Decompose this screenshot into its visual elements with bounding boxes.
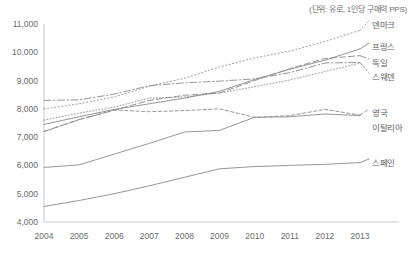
series-leader-line [360, 43, 369, 49]
y-tick-label: 4,000 [17, 217, 39, 227]
line-chart-plot: 11,00010,0009,0008,0007,0006,0005,0004,0… [0, 0, 413, 256]
series-line-united-kingdom [44, 63, 360, 120]
series-label-denmark: 덴마크 [372, 18, 395, 30]
series-label-sweden: 스웨덴 [372, 70, 395, 82]
x-tick-label: 2005 [70, 231, 89, 241]
x-tick-label: 2004 [35, 231, 54, 241]
chart-container: (단위: 유로, 1인당 구매력 PPS) 11,00010,0009,0008… [0, 0, 413, 256]
y-tick-label: 10,000 [12, 47, 38, 57]
series-line-denmark [44, 30, 360, 109]
data-series-group [44, 21, 369, 206]
x-tick-label: 2013 [351, 231, 370, 241]
series-line-germany [44, 56, 360, 132]
series-leader-line [360, 56, 369, 59]
series-line-spain-lower [44, 163, 360, 207]
x-tick-label: 2011 [281, 231, 300, 241]
series-leader-line [360, 109, 369, 115]
y-tick-label: 7,000 [17, 132, 39, 142]
y-tick-label: 5,000 [17, 189, 39, 199]
x-tick-label: 2006 [105, 231, 124, 241]
y-tick-label: 8,000 [17, 104, 39, 114]
series-leader-line [360, 62, 369, 73]
x-tick-label: 2010 [245, 231, 264, 241]
series-label-italy: 이탈리아 [372, 121, 403, 133]
series-line-france [44, 49, 360, 125]
series-label-spain: 스페인 [372, 156, 395, 168]
series-label-germany: 독일 [372, 56, 387, 68]
x-tick-label: 2009 [210, 231, 229, 241]
x-tick-label: 2008 [175, 231, 194, 241]
series-line-italy [44, 109, 360, 132]
series-line-spain [44, 114, 360, 167]
x-axis-tick-labels: 2004200520062007200820092010201120122013 [35, 231, 370, 241]
x-tick-label: 2012 [315, 231, 334, 241]
x-tick-label: 2007 [140, 231, 159, 241]
series-label-france: 프랑스 [372, 40, 395, 52]
series-leader-line [360, 159, 369, 163]
y-tick-label: 11,000 [13, 19, 39, 29]
series-leader-line [360, 21, 369, 30]
y-tick-label: 9,000 [17, 76, 39, 86]
y-tick-label: 6,000 [17, 160, 39, 170]
series-label-uk: 영국 [372, 106, 387, 118]
y-axis-tick-labels: 11,00010,0009,0008,0007,0006,0005,0004,0… [12, 19, 38, 227]
